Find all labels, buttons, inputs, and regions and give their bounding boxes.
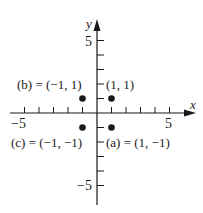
annotation-b: (b) = (−1, 1) [17, 77, 81, 92]
annotation-a: (a) = (1, −1) [106, 135, 170, 150]
x-min-label: −5 [11, 116, 26, 131]
y-axis-label: y [84, 16, 92, 31]
annotation-1-1: (1, 1) [106, 77, 134, 92]
y-min-label: −5 [77, 178, 92, 193]
annotation-c: (c) = (−1, −1) [11, 135, 82, 150]
coordinate-plane: x y −5 5 5 −5 (b) = (−1, 1) (1, 1) (c) =… [0, 0, 203, 213]
point-1-1 [108, 95, 115, 102]
y-axis-arrow-icon [94, 19, 101, 31]
x-axis-label: x [189, 97, 196, 112]
point-a [108, 124, 115, 131]
y-max-label: 5 [85, 34, 92, 49]
x-max-label: 5 [165, 116, 172, 131]
point-c [79, 124, 86, 131]
point-b [79, 95, 86, 102]
